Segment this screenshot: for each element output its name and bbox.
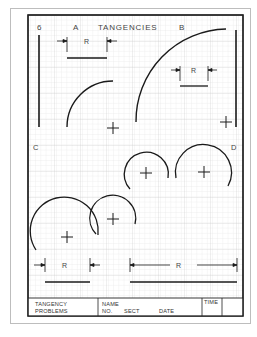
date-field-label: DATE: [159, 308, 174, 314]
graph-grid: [28, 15, 243, 316]
radius-label-b: R: [191, 67, 196, 74]
name-field-label: NAME: [102, 301, 119, 307]
problem-title-line1: TANGENCY: [35, 301, 67, 307]
label-c: C: [33, 143, 39, 152]
problem-title-line2: PROBLEMS: [35, 308, 68, 314]
sheet-title: TANGENCIES: [98, 23, 157, 32]
radius-label-c-large: R: [176, 262, 181, 269]
radius-label-c-small: R: [62, 262, 67, 269]
time-field-label: TIME: [204, 299, 218, 305]
label-b: B: [179, 23, 184, 32]
label-d: D: [231, 143, 237, 152]
radius-label-a: R: [84, 38, 89, 45]
label-a: A: [73, 23, 79, 32]
sect-field-label: SECT: [124, 308, 140, 314]
drawing-sheet: 6 A TANGENCIES B C D R R: [0, 0, 257, 337]
no-field-label: NO.: [102, 308, 113, 314]
sheet-number: 6: [37, 23, 42, 32]
